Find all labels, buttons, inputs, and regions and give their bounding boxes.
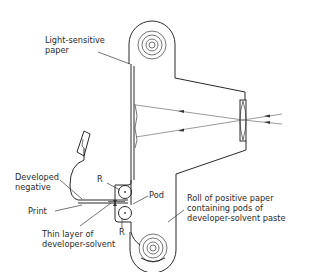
- negative-roll: [138, 31, 166, 59]
- label-roller-top: R: [97, 174, 103, 184]
- positive-roll: [139, 234, 167, 262]
- light-rays: [136, 105, 282, 137]
- label-roller-bottom: R: [119, 227, 125, 237]
- label-light-sensitive-paper: Light-sensitive paper: [45, 35, 105, 55]
- label-roll-positive-paper: Roll of positive paper containing pods o…: [187, 193, 286, 223]
- label-pod: Pod: [149, 190, 164, 200]
- top-housing-outline: [129, 21, 245, 100]
- exit-guide: [70, 148, 84, 200]
- label-developed-negative: Developed negative: [15, 172, 59, 192]
- label-print: Print: [28, 206, 47, 216]
- focused-image: [135, 104, 137, 148]
- label-thin-layer: Thin layer of developer-solvent: [42, 229, 115, 249]
